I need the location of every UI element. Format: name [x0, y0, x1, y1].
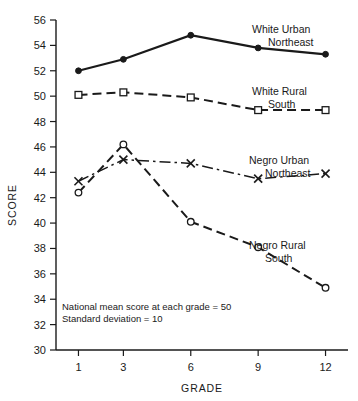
series-label-line: Northeast — [268, 36, 314, 48]
x-tick-label: 3 — [120, 361, 126, 373]
y-tick-label: 56 — [34, 14, 46, 26]
data-point-marker — [255, 45, 261, 51]
data-point-marker — [76, 68, 82, 74]
data-point-marker — [188, 32, 194, 38]
chart-container: 3032343638404244464850525456 136912 SCOR… — [0, 0, 358, 401]
y-axis-title: SCORE — [6, 184, 18, 226]
y-tick-label: 50 — [34, 90, 46, 102]
chart-annotation-text: National mean score at each grade = 50 — [62, 301, 231, 312]
data-point-marker — [120, 56, 126, 62]
data-point-marker — [75, 91, 82, 98]
x-tick-label: 12 — [319, 361, 331, 373]
data-point-marker — [322, 170, 330, 178]
score-by-grade-line-chart: 3032343638404244464850525456 136912 SCOR… — [0, 0, 358, 401]
y-tick-label: 46 — [34, 141, 46, 153]
y-tick-label: 44 — [34, 166, 46, 178]
data-point-marker — [74, 177, 82, 185]
x-tick-label: 6 — [188, 361, 194, 373]
series-label-line: White Rural — [252, 85, 307, 97]
series-label-line: Negro Rural — [249, 239, 306, 251]
chart-annotations: National mean score at each grade = 50St… — [62, 301, 231, 324]
y-tick-label: 54 — [34, 39, 46, 51]
series-label-white-urban-northeast: White UrbanNortheast — [252, 23, 314, 48]
y-tick-label: 36 — [34, 268, 46, 280]
series-label-line: Negro Urban — [249, 154, 309, 166]
x-axis-title: GRADE — [181, 382, 223, 394]
y-axis-ticks: 3032343638404244464850525456 — [34, 14, 56, 356]
data-point-marker — [322, 107, 329, 114]
x-axis-ticks: 136912 — [75, 350, 331, 373]
series-label-negro-rural-south: Negro RuralSouth — [249, 239, 306, 264]
data-point-marker — [187, 219, 194, 226]
x-tick-label: 9 — [255, 361, 261, 373]
y-tick-label: 32 — [34, 319, 46, 331]
x-tick-label: 1 — [75, 361, 81, 373]
data-point-marker — [255, 107, 262, 114]
y-tick-label: 40 — [34, 217, 46, 229]
data-point-marker — [187, 94, 194, 101]
series-label-negro-urban-northeast: Negro UrbanNortheast — [249, 154, 311, 179]
y-tick-label: 34 — [34, 293, 46, 305]
data-point-marker — [75, 189, 82, 196]
y-tick-label: 52 — [34, 65, 46, 77]
y-tick-label: 48 — [34, 116, 46, 128]
series-label-line: White Urban — [252, 23, 311, 35]
data-point-marker — [120, 141, 127, 148]
data-point-marker — [322, 285, 329, 292]
chart-annotation-text: Standard deviation = 10 — [62, 313, 163, 324]
series-label-line: South — [265, 252, 293, 264]
series-label-line: South — [268, 98, 296, 110]
data-point-marker — [120, 89, 127, 96]
y-tick-label: 42 — [34, 192, 46, 204]
y-tick-label: 38 — [34, 242, 46, 254]
series-labels-group: White UrbanNortheastWhite RuralSouthNegr… — [249, 23, 314, 264]
data-point-marker — [323, 51, 329, 57]
series-label-line: Northeast — [265, 167, 311, 179]
y-tick-label: 30 — [34, 344, 46, 356]
